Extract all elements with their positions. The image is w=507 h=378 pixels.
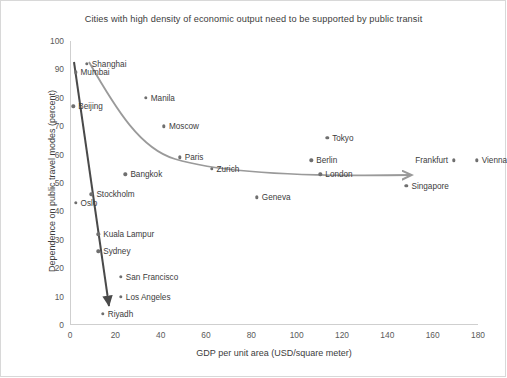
data-point [90, 193, 93, 196]
data-point [74, 201, 77, 204]
x-axis-title: GDP per unit area (USD/square meter) [70, 348, 478, 358]
x-tick-label: 140 [367, 330, 407, 340]
data-point-label: Tokyo [332, 133, 353, 142]
data-point [85, 62, 88, 65]
plot-points-layer: ShanghaiMumbaiBeijingManilaMoscowTokyoPa… [71, 41, 478, 324]
data-point-label: Singapore [411, 181, 448, 190]
y-tick-label: 0 [34, 320, 64, 330]
data-point-label: Beijing [78, 102, 103, 111]
data-point-label: Kuala Lampur [103, 230, 154, 239]
data-point [310, 159, 313, 162]
data-point [144, 96, 147, 99]
data-point-label: Geneva [262, 193, 291, 202]
data-point-label: Sydney [103, 247, 130, 256]
scatter-chart: Cities with high density of economic out… [0, 0, 507, 378]
data-point-label: Zurich [217, 164, 240, 173]
data-point [452, 159, 455, 162]
data-point [405, 184, 408, 187]
data-point [319, 173, 322, 176]
x-tick-label: 120 [322, 330, 362, 340]
y-axis-title: Dependence on public travel modes (perce… [47, 41, 57, 321]
data-point-label: Vienna [482, 156, 507, 165]
data-point-label: Mumbai [81, 68, 110, 77]
data-point [325, 136, 328, 139]
data-point [74, 71, 77, 74]
data-point [162, 124, 165, 127]
data-point-label: Berlin [316, 156, 337, 165]
data-point-label: Moscow [169, 122, 199, 131]
x-tick-label: 180 [458, 330, 498, 340]
data-point [119, 295, 122, 298]
x-tick-label: 20 [95, 330, 135, 340]
data-point [72, 105, 75, 108]
chart-title: Cities with high density of economic out… [0, 14, 507, 24]
plot-area: ShanghaiMumbaiBeijingManilaMoscowTokyoPa… [70, 41, 478, 325]
dark-trend-line [74, 62, 109, 306]
data-point-label: Frankfurt [415, 156, 448, 165]
data-point-label: Paris [185, 153, 204, 162]
data-point [178, 156, 181, 159]
data-point [96, 232, 99, 235]
data-point-label: Riyadh [108, 309, 134, 318]
data-point [255, 195, 258, 198]
x-tick-label: 160 [413, 330, 453, 340]
data-point [124, 173, 127, 176]
x-tick-label: 100 [277, 330, 317, 340]
data-point [101, 312, 104, 315]
data-point-label: Los Angeles [126, 292, 171, 301]
data-point [96, 249, 99, 252]
x-tick-label: 0 [50, 330, 90, 340]
data-point-label: London [325, 170, 352, 179]
data-point [210, 167, 213, 170]
x-tick-label: 80 [231, 330, 271, 340]
x-tick-label: 60 [186, 330, 226, 340]
data-point [119, 275, 122, 278]
x-axis-tick-labels: 020406080100120140160180 [70, 330, 478, 344]
data-point-label: San Francisco [126, 272, 178, 281]
data-point-label: Oslo [81, 198, 98, 207]
data-point-label: Manila [151, 93, 175, 102]
data-point-label: Stockholm [96, 190, 134, 199]
x-tick-label: 40 [141, 330, 181, 340]
gray-trend-curve [89, 62, 411, 175]
data-point-label: Bangkok [130, 170, 162, 179]
data-point [475, 159, 478, 162]
